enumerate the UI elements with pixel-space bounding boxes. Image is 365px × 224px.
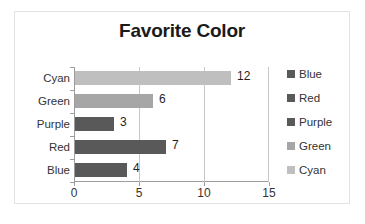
legend-label: Red bbox=[299, 92, 320, 104]
y-axis-tick bbox=[70, 136, 74, 137]
category-label-purple: Purple bbox=[18, 118, 70, 130]
y-axis-tick bbox=[70, 159, 74, 160]
category-label-red: Red bbox=[18, 141, 70, 153]
legend-swatch-icon bbox=[287, 166, 295, 174]
legend-swatch-icon bbox=[287, 70, 295, 78]
y-axis-category-labels: BlueRedPurpleGreenCyan bbox=[15, 67, 70, 182]
x-tick-label: 5 bbox=[136, 186, 143, 200]
legend-label: Purple bbox=[299, 116, 332, 128]
category-label-cyan: Cyan bbox=[18, 72, 70, 84]
plot-area: 473612 bbox=[74, 67, 269, 182]
chart-legend: BlueRedPurpleGreenCyan bbox=[287, 62, 349, 182]
bar-cyan[interactable] bbox=[75, 71, 231, 85]
bar-value-label: 6 bbox=[159, 92, 166, 106]
legend-item-purple[interactable]: Purple bbox=[287, 110, 349, 134]
x-tick-label: 15 bbox=[262, 186, 275, 200]
x-tick-label: 10 bbox=[197, 186, 210, 200]
legend-item-cyan[interactable]: Cyan bbox=[287, 158, 349, 182]
legend-swatch-icon bbox=[287, 142, 295, 150]
x-tick-label: 0 bbox=[71, 186, 78, 200]
y-axis-tick bbox=[70, 182, 74, 183]
y-axis-tick bbox=[70, 90, 74, 91]
bar-blue[interactable] bbox=[75, 163, 127, 177]
category-label-green: Green bbox=[18, 95, 70, 107]
bar-value-label: 7 bbox=[172, 138, 179, 152]
legend-item-green[interactable]: Green bbox=[287, 134, 349, 158]
bar-row: 3 bbox=[75, 113, 270, 136]
bar-purple[interactable] bbox=[75, 117, 114, 131]
bar-row: 4 bbox=[75, 159, 270, 182]
legend-item-red[interactable]: Red bbox=[287, 86, 349, 110]
legend-label: Cyan bbox=[299, 164, 326, 176]
bar-row: 6 bbox=[75, 90, 270, 113]
y-axis-tick bbox=[70, 67, 74, 68]
legend-swatch-icon bbox=[287, 94, 295, 102]
legend-label: Green bbox=[299, 140, 331, 152]
legend-label: Blue bbox=[299, 68, 322, 80]
legend-item-blue[interactable]: Blue bbox=[287, 62, 349, 86]
bar-row: 12 bbox=[75, 67, 270, 90]
x-axis-tick-labels: 051015 bbox=[74, 186, 269, 204]
bar-row: 7 bbox=[75, 136, 270, 159]
category-label-blue: Blue bbox=[18, 164, 70, 176]
chart-frame: Favorite Color BlueRedPurpleGreenCyan 47… bbox=[14, 11, 350, 204]
bar-value-label: 12 bbox=[237, 69, 250, 83]
legend-swatch-icon bbox=[287, 118, 295, 126]
bar-value-label: 4 bbox=[133, 161, 140, 175]
bar-green[interactable] bbox=[75, 94, 153, 108]
y-axis-tick bbox=[70, 113, 74, 114]
bar-red[interactable] bbox=[75, 140, 166, 154]
bar-value-label: 3 bbox=[120, 115, 127, 129]
chart-title: Favorite Color bbox=[15, 20, 349, 42]
